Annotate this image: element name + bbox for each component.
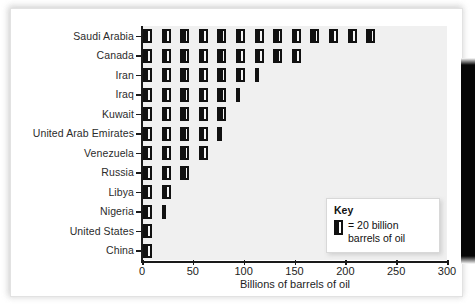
barrel-icon [273,49,282,63]
row-label-venezuela: Venezuela [10,147,138,159]
barrel-icon [217,88,226,102]
barrel-icon [143,166,152,180]
barrel-icon [236,29,245,43]
barrel-icon [329,29,338,43]
barrel-icon [255,29,264,43]
page-edge-gradient-top [461,58,475,65]
barrel-icon [143,88,152,102]
row-icons [138,104,447,124]
barrel-icon [143,68,152,82]
barrel-icon [143,49,152,63]
barrel-icon [180,88,189,102]
barrel-icon [348,29,357,43]
barrel-icon [162,127,171,141]
barrel-icon [236,49,245,63]
barrel-icon [273,29,282,43]
row-icons [138,163,447,183]
barrel-icon [236,68,245,82]
row-icons [138,65,447,85]
row-label-russia: Russia [10,166,138,178]
barrel-icon [162,107,171,121]
barrel-icon [162,146,171,160]
row-label-saudi-arabia: Saudi Arabia [10,30,138,42]
row-label-iran: Iran [10,69,138,81]
row-icons [138,143,447,163]
row-icons [138,85,447,105]
barrel-icon [199,146,208,160]
barrel-icon [292,49,301,63]
barrel-icon [199,29,208,43]
barrel-icon [334,220,343,235]
barrel-icon [180,127,189,141]
pictograph-row: Canada [10,46,447,66]
x-axis-title: Billions of barrels of oil [142,278,448,290]
key-box: Key = 20 billion barrels of oil [326,198,440,253]
pictograph-page: Saudi ArabiaCanadaIranIraqKuwaitUnited A… [0,0,475,305]
x-axis-tick-label: 0 [139,265,145,277]
key-title: Key [334,204,432,216]
barrel-icon [199,107,208,121]
barrel-icon-half [217,127,221,141]
pictograph-chart: Saudi ArabiaCanadaIranIraqKuwaitUnited A… [10,8,463,297]
barrel-icon [143,205,152,219]
key-description: = 20 billion barrels of oil [348,219,405,244]
barrel-icon [143,29,152,43]
barrel-icon [162,29,171,43]
pictograph-row: United Arab Emirates [10,124,447,144]
barrel-icon [199,127,208,141]
barrel-icon [180,166,189,180]
barrel-icon [143,244,152,258]
barrel-icon [180,49,189,63]
barrel-icon [180,29,189,43]
barrel-icon [199,88,208,102]
barrel-icon [143,185,152,199]
row-label-iraq: Iraq [10,88,138,100]
key-row: = 20 billion barrels of oil [334,219,432,244]
row-label-china: China [10,244,138,256]
pictograph-row: Venezuela [10,143,447,163]
x-axis-tick-label: 100 [234,265,252,277]
pictograph-row: Saudi Arabia [10,26,447,46]
pictograph-row: Iraq [10,85,447,105]
barrel-icon [162,185,171,199]
page-edge-black-band [461,65,475,256]
barrel-icon [162,88,171,102]
barrel-icon [180,68,189,82]
barrel-icon [310,29,319,43]
x-axis-tick-label: 300 [438,265,456,277]
barrel-icon [217,68,226,82]
row-label-canada: Canada [10,49,138,61]
x-axis-tick-label: 50 [187,265,199,277]
key-line-2: barrels of oil [348,232,405,244]
barrel-icon-half [236,88,240,102]
barrel-icon [199,49,208,63]
barrel-icon [217,49,226,63]
pictograph-row: Iran [10,65,447,85]
barrel-icon [180,146,189,160]
pictograph-row: Kuwait [10,104,447,124]
row-icons [138,124,447,144]
barrel-icon-half [255,68,259,82]
barrel-icon [143,127,152,141]
barrel-icon [143,146,152,160]
row-label-kuwait: Kuwait [10,108,138,120]
barrel-icon [217,107,226,121]
barrel-icon [162,49,171,63]
row-label-nigeria: Nigeria [10,205,138,217]
barrel-icon [143,224,152,238]
row-icons [138,46,447,66]
barrel-icon [162,68,171,82]
x-axis-tick-label: 250 [387,265,405,277]
row-label-libya: Libya [10,186,138,198]
row-icons [138,26,447,46]
barrel-icon [199,68,208,82]
barrel-icon [292,29,301,43]
barrel-icon [180,107,189,121]
barrel-icon [143,107,152,121]
barrel-icon-half [162,205,166,219]
barrel-icon [217,29,226,43]
pictograph-row: Russia [10,163,447,183]
row-label-united-arab-emirates: United Arab Emirates [10,127,138,139]
barrel-icon [366,29,375,43]
x-axis-tick-label: 150 [285,265,303,277]
